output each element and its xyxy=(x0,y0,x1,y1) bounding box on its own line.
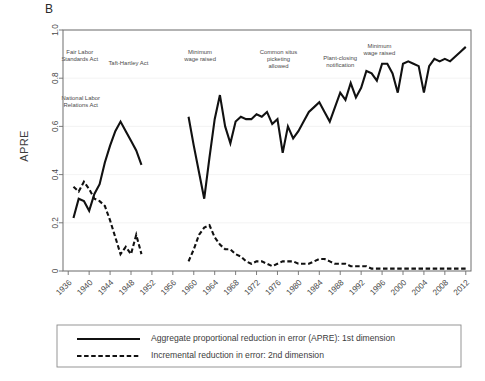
x-tick-label: 1960 xyxy=(180,278,200,298)
panel-label: B xyxy=(45,2,54,16)
y-tick-label: 0.8 xyxy=(51,72,60,84)
y-tick-label: 0 xyxy=(51,268,60,273)
x-tick-label: 1964 xyxy=(201,278,221,298)
x-tick-label: 1972 xyxy=(243,278,263,298)
annotation-minimum-wage-raised-2: wage raised xyxy=(363,50,396,56)
x-tick-label: 1984 xyxy=(305,278,325,298)
series-solid xyxy=(189,47,466,199)
annotation-minimum-wage-raised-2: Minimum xyxy=(368,43,392,49)
y-tick-label: 0.2 xyxy=(51,217,60,229)
x-tick-label: 2004 xyxy=(410,278,430,298)
annotation-fair-labor-standards-act: Standards Act xyxy=(61,56,98,62)
x-tick-label: 1952 xyxy=(138,278,158,298)
x-tick-label: 1948 xyxy=(117,278,137,298)
chart-canvas: Fair LaborStandards ActNational LaborRel… xyxy=(0,0,485,381)
y-tick-label: 1.0 xyxy=(51,24,60,36)
annotation-national-labor-relations-act: Relations Act xyxy=(64,102,99,108)
x-tick-label: 1980 xyxy=(285,278,305,298)
x-tick-label: 2008 xyxy=(431,278,451,298)
annotation-minimum-wage-raised-1: wage raised xyxy=(183,56,216,62)
annotation-plant-closing-notification: Plant-closing xyxy=(323,55,357,61)
annotation-common-situs-picketing-allowed: picketing xyxy=(267,56,290,62)
x-tick-label: 1936 xyxy=(54,278,74,298)
annotation-taft-hartley-act: Taft-Hartley Act xyxy=(108,60,148,66)
annotation-fair-labor-standards-act: Fair Labor xyxy=(66,49,93,55)
annotation-common-situs-picketing-allowed: Common situs xyxy=(260,49,298,55)
figure-panel-b: B APRE Fair LaborStandards ActNational L… xyxy=(0,0,485,381)
series-solid xyxy=(73,122,141,218)
legend-box xyxy=(57,325,461,367)
x-tick-label: 1976 xyxy=(264,278,284,298)
legend-label: Aggregate proportional reduction in erro… xyxy=(151,333,395,343)
annotation-common-situs-picketing-allowed: allowed xyxy=(269,63,289,69)
series-dashed xyxy=(73,182,141,254)
gridlines xyxy=(63,30,471,271)
x-tick-label: 2012 xyxy=(452,278,472,298)
x-tick-label: 1944 xyxy=(96,278,116,298)
plot-frame xyxy=(63,30,471,271)
x-tick-label: 1968 xyxy=(222,278,242,298)
y-tick-label: 0.6 xyxy=(51,120,60,132)
chart-legend: Aggregate proportional reduction in erro… xyxy=(57,325,461,367)
x-tick-label: 1996 xyxy=(368,278,388,298)
x-tick-label: 1992 xyxy=(347,278,367,298)
series-dashed xyxy=(189,225,466,268)
annotation-plant-closing-notification: notification xyxy=(326,62,354,68)
annotation-national-labor-relations-act: National Labor xyxy=(62,95,100,101)
x-tick-label: 2000 xyxy=(389,278,409,298)
legend-label: Incremental reduction in error: 2nd dime… xyxy=(151,350,324,360)
x-tick-label: 1988 xyxy=(326,278,346,298)
x-tick-label: 1940 xyxy=(75,278,95,298)
x-tick-label: 1956 xyxy=(159,278,179,298)
annotation-minimum-wage-raised-1: Minimum xyxy=(188,49,212,55)
y-tick-label: 0.4 xyxy=(51,168,60,180)
y-axis-label: APRE xyxy=(18,116,30,176)
series-lines xyxy=(73,47,465,269)
